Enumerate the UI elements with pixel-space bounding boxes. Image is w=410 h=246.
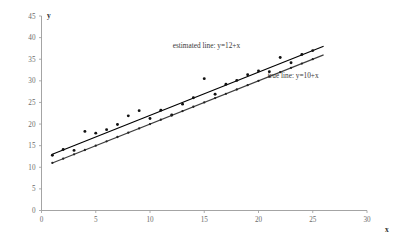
data-point [127,132,129,134]
data-point [51,154,54,157]
data-point [312,58,314,60]
y-tick-label: 0 [32,207,36,215]
data-point [279,56,282,59]
data-point [203,77,206,80]
x-tick-label: 15 [201,216,209,224]
data-point [225,83,228,86]
data-point [203,101,205,103]
data-point [160,119,162,121]
data-points [51,49,314,164]
x-tick-label: 30 [363,216,371,224]
data-point [246,73,249,76]
data-point [73,153,75,155]
data-point [235,79,238,82]
y-axis: 051015202530354045 [28,13,41,216]
data-point [149,123,151,125]
data-point [105,128,108,131]
y-tick-label: 15 [28,142,36,150]
y-tick-label: 35 [28,56,36,64]
data-point [247,84,249,86]
data-point [171,114,173,116]
estimated-line [52,46,323,154]
data-point [192,106,194,108]
x-tick-label: 10 [146,216,154,224]
data-point [300,53,303,56]
data-point [181,110,183,112]
x-axis-title: x [385,225,389,234]
y-tick-label: 20 [28,121,36,129]
data-point [181,103,184,106]
data-point [149,117,152,120]
x-tick-label: 0 [40,216,44,224]
data-point [105,140,107,142]
true-line-label: true line: y=10+x [268,71,319,80]
data-point [311,49,314,52]
data-point [236,88,238,90]
y-tick-label: 5 [32,185,36,193]
data-point [84,149,86,151]
y-axis-title: y [47,11,51,20]
data-point [301,62,303,64]
data-point [257,80,259,82]
data-point [62,148,65,151]
data-point [290,61,293,64]
data-point [138,127,140,129]
estimated-line-label: estimated line: y=12+x [173,41,241,50]
y-tick-label: 10 [28,164,36,172]
data-point [116,123,119,126]
data-point [225,93,227,95]
y-tick-label: 30 [28,77,36,85]
x-tick-label: 20 [255,216,263,224]
y-tick-label: 45 [28,13,36,21]
data-point [94,132,97,135]
x-tick-label: 5 [94,216,98,224]
data-point [116,136,118,138]
data-point [192,96,195,99]
x-axis: 051015202530 [40,211,371,225]
data-point [214,97,216,99]
data-point [257,69,260,72]
line-annotations: estimated line: y=12+xtrue line: y=10+x [173,41,319,80]
scatter-plot-figure: 051015202530354045 051015202530 estimate… [0,0,410,246]
data-point [51,162,53,164]
data-point [62,157,64,159]
plot-canvas: 051015202530354045 051015202530 estimate… [0,0,410,246]
data-point [290,67,292,69]
y-tick-label: 40 [28,34,36,42]
data-point [95,145,97,147]
data-point [138,109,141,112]
y-tick-label: 25 [28,99,36,107]
data-point [214,93,217,96]
data-point [73,149,76,152]
x-tick-label: 25 [309,216,317,224]
data-point [127,114,130,117]
regression-lines [52,46,323,163]
data-point [159,109,162,112]
data-point [83,130,86,133]
